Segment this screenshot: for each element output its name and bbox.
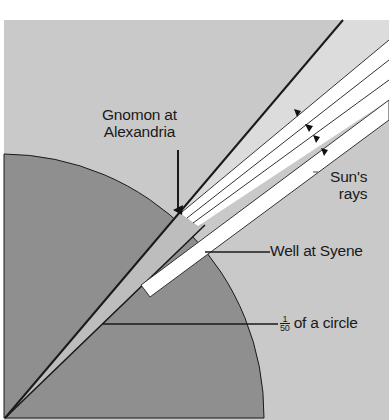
fraction-denominator: 50 [280,324,290,332]
fraction-label: 1 50 of a circle [280,314,358,332]
gnomon-label: Gnomon at Alexandria [102,106,177,140]
fraction-text: of a circle [294,314,358,331]
sun-rays-label-line-1: Sun's [330,168,367,185]
sun-rays-label-line-2: rays [330,185,367,202]
gnomon-label-line-1: Gnomon at [102,106,177,123]
well-label-text: Well at Syene [270,242,363,259]
sun-rays-label: Sun's rays [330,168,367,202]
gnomon-label-line-2: Alexandria [102,123,177,140]
well-label: Well at Syene [270,242,363,259]
eratosthenes-diagram [0,0,389,420]
fraction: 1 50 [280,315,290,332]
